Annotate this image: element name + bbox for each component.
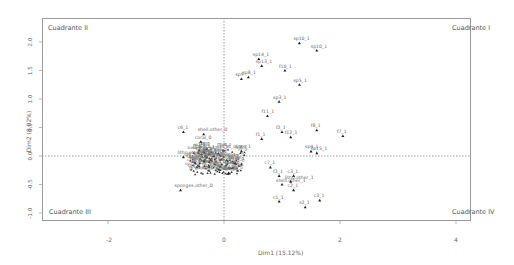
point-label: f11_1 xyxy=(262,109,275,115)
triangle-marker-icon xyxy=(289,136,292,139)
point-label: f12_1 xyxy=(285,130,298,136)
point-label: c1_1 xyxy=(273,195,284,201)
triangle-marker-icon xyxy=(227,172,230,175)
triangle-marker-icon xyxy=(315,152,318,155)
point-label: sp3_1 xyxy=(273,95,287,101)
point-label: c2_1 xyxy=(288,183,299,189)
point-label: s2_1 xyxy=(299,200,310,206)
point-label: sp5_1 xyxy=(293,78,307,84)
triangle-marker-icon xyxy=(209,172,211,174)
point-label: c3_1 xyxy=(314,193,325,199)
point-label: sponges.other_0 xyxy=(175,183,213,189)
x-tick-label: 4 xyxy=(454,236,458,243)
triangle-marker-icon xyxy=(281,183,284,186)
point-label: f1_1 xyxy=(256,132,266,138)
svg-text:f5_0: f5_0 xyxy=(204,165,213,170)
quadrant-label-i: Cuadrante I xyxy=(452,24,490,32)
x-axis-title: Dim1 (15.12%) xyxy=(258,249,303,256)
y-tick-label: -0.5 xyxy=(27,179,33,190)
triangle-marker-icon xyxy=(260,137,263,140)
x-tick-label: 0 xyxy=(222,236,226,243)
point-label: sp10_1 xyxy=(311,44,327,50)
triangle-marker-icon xyxy=(214,173,216,175)
quadrant-label-ii: Cuadrante II xyxy=(48,24,88,32)
point-label: sp13_1 xyxy=(256,59,272,65)
triangle-marker-icon xyxy=(341,134,344,137)
point-label: sp15_1 xyxy=(311,146,327,152)
triangle-marker-icon xyxy=(315,49,318,52)
svg-text:f3_0: f3_0 xyxy=(193,158,202,163)
triangle-marker-icon xyxy=(292,189,295,192)
triangle-marker-icon xyxy=(281,130,284,133)
quadrant-label-iii: Cuadrante III xyxy=(49,208,91,216)
svg-text:sp1_0: sp1_0 xyxy=(214,159,226,164)
triangle-marker-icon xyxy=(318,199,321,202)
triangle-marker-icon xyxy=(179,189,182,192)
triangle-marker-icon xyxy=(266,115,269,118)
y-tick-label: 2.0 xyxy=(27,37,33,46)
triangle-marker-icon xyxy=(283,69,286,72)
y-tick-label: -1.0 xyxy=(27,207,33,218)
triangle-marker-icon xyxy=(298,42,301,45)
triangle-marker-icon xyxy=(304,206,307,209)
x-tick-label: 2 xyxy=(338,236,342,243)
triangle-marker-icon xyxy=(298,83,301,86)
y-axis-title: Dim2 (8.02%) xyxy=(25,111,32,153)
triangle-marker-icon xyxy=(315,129,318,132)
triangle-marker-icon xyxy=(278,200,281,203)
point-label: c7_1 xyxy=(264,160,275,166)
svg-text:bare_0: bare_0 xyxy=(188,145,202,150)
triangle-marker-icon xyxy=(260,64,263,67)
point-label: sp8_1 xyxy=(242,70,256,76)
svg-text:bare_0: bare_0 xyxy=(209,151,223,156)
y-tick-label: 0.0 xyxy=(27,151,33,160)
triangle-marker-icon xyxy=(194,173,196,175)
point-label: sp10_1 xyxy=(293,36,309,42)
x-tick-label: -2 xyxy=(106,236,112,243)
point-label: sp14_1 xyxy=(253,52,269,58)
triangle-marker-icon xyxy=(206,172,208,174)
triangle-marker-icon xyxy=(278,100,281,103)
triangle-marker-icon xyxy=(182,130,185,133)
point-label: f8_1 xyxy=(311,123,321,129)
point-label: sp7_1 xyxy=(223,166,237,172)
triangle-marker-icon xyxy=(200,172,202,174)
triangle-marker-icon xyxy=(236,172,238,174)
point-label: shell.other_0 xyxy=(198,127,228,133)
triangle-marker-icon xyxy=(240,77,243,80)
y-tick-label: 1.5 xyxy=(27,66,33,75)
point-label: f7_1 xyxy=(337,129,347,135)
triangle-marker-icon xyxy=(222,171,224,173)
quadrant-label-iv: Cuadrante IV xyxy=(452,208,495,216)
triangle-marker-icon xyxy=(269,166,272,169)
triangle-marker-icon xyxy=(218,171,220,173)
svg-text:c2_1: c2_1 xyxy=(212,145,222,150)
point-label: f2_1 xyxy=(273,169,283,175)
point-label: c6_1 xyxy=(177,125,188,131)
triangle-marker-icon xyxy=(247,76,250,79)
y-tick-label: 1.0 xyxy=(27,94,33,103)
scatter-plot: -1.0-0.50.00.51.01.52.0c2_1f5_0sp1_0c4_0… xyxy=(0,0,514,265)
point-label: f10_1 xyxy=(279,64,292,70)
triangle-marker-icon xyxy=(230,171,232,173)
